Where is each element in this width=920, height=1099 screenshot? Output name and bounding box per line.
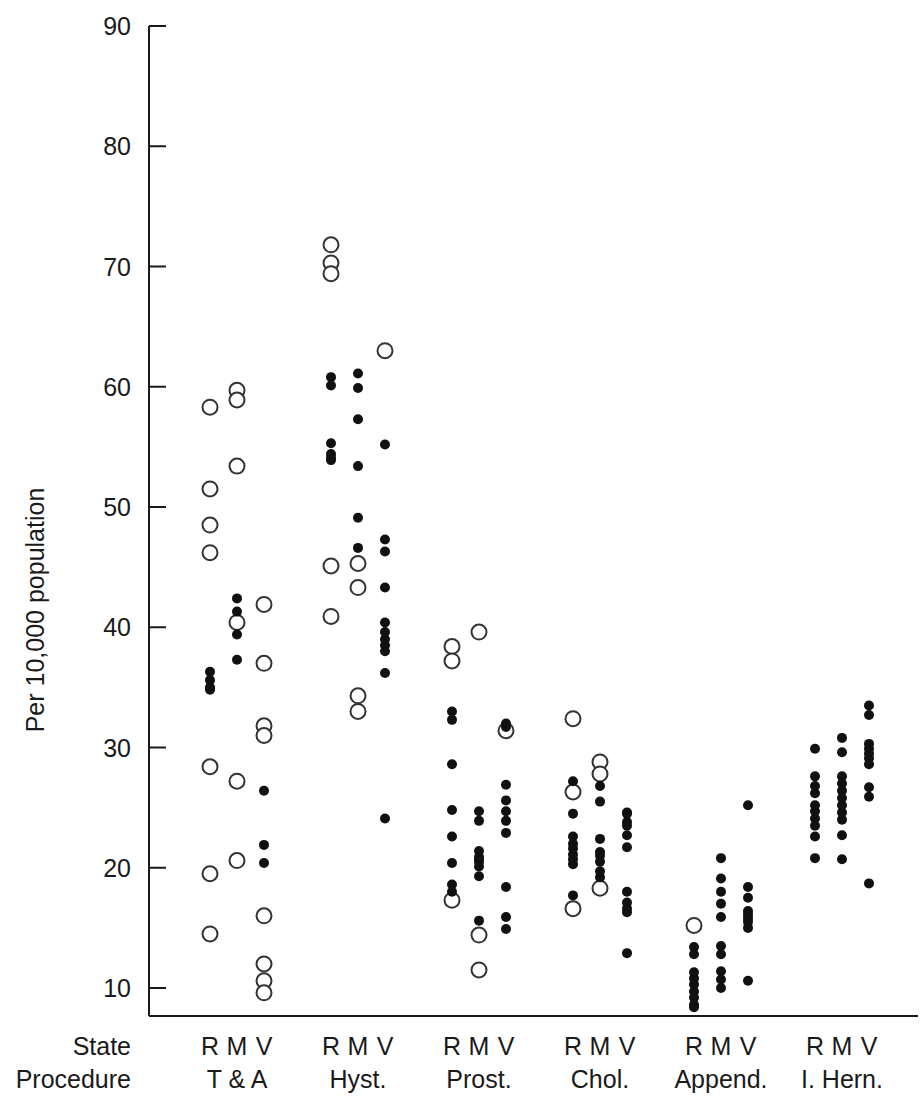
data-point xyxy=(622,842,632,852)
data-point xyxy=(445,639,460,654)
data-point xyxy=(864,700,874,710)
data-point xyxy=(593,881,608,896)
data-point xyxy=(622,830,632,840)
data-point xyxy=(380,668,390,678)
data-point xyxy=(232,629,242,639)
data-point xyxy=(501,806,511,816)
procedure-label-prost: Prost. xyxy=(446,1065,511,1093)
data-point xyxy=(566,711,581,726)
data-point xyxy=(501,882,511,892)
data-point xyxy=(864,792,874,802)
data-point xyxy=(743,882,753,892)
data-point xyxy=(232,593,242,603)
state-label-hyst-m: M xyxy=(348,1032,369,1060)
data-point xyxy=(230,459,245,474)
y-tick-label-90: 90 xyxy=(103,12,131,40)
data-point xyxy=(716,853,726,863)
data-point xyxy=(837,747,847,757)
data-point xyxy=(501,780,511,790)
y-tick-label-10: 10 xyxy=(103,974,131,1002)
data-point xyxy=(380,617,390,627)
data-point xyxy=(230,392,245,407)
data-point xyxy=(810,788,820,798)
state-label-prost-r: R xyxy=(443,1032,461,1060)
data-point xyxy=(837,854,847,864)
y-tick-label-80: 80 xyxy=(103,132,131,160)
data-point xyxy=(447,887,457,897)
scatter-plot-figure: 102030405060708090 Per 10,000 population… xyxy=(0,0,920,1099)
data-point xyxy=(257,985,272,1000)
data-point xyxy=(447,759,457,769)
data-point xyxy=(743,893,753,903)
data-point xyxy=(810,821,820,831)
data-point xyxy=(474,871,484,881)
data-point xyxy=(501,912,511,922)
data-point xyxy=(687,918,702,933)
state-label-ta-m: M xyxy=(227,1032,248,1060)
data-point xyxy=(501,924,511,934)
data-point xyxy=(864,782,874,792)
data-point xyxy=(326,453,336,463)
state-label-ihern-v: V xyxy=(861,1032,878,1060)
data-point xyxy=(566,901,581,916)
y-axis-tick-labels: 102030405060708090 xyxy=(103,12,131,1002)
data-point xyxy=(447,831,457,841)
state-label-append-v: V xyxy=(740,1032,757,1060)
data-point xyxy=(447,858,457,868)
data-point xyxy=(353,513,363,523)
data-point xyxy=(743,923,753,933)
state-label-chol-r: R xyxy=(564,1032,582,1060)
data-point xyxy=(351,704,366,719)
data-point xyxy=(501,795,511,805)
data-point xyxy=(230,615,245,630)
data-point xyxy=(501,816,511,826)
row-label-state: State xyxy=(73,1032,131,1060)
data-points-layer xyxy=(203,237,875,1012)
data-point xyxy=(474,862,484,872)
data-point xyxy=(380,439,390,449)
data-point xyxy=(378,343,393,358)
data-point xyxy=(230,774,245,789)
data-point xyxy=(474,916,484,926)
data-point xyxy=(810,853,820,863)
data-point xyxy=(259,858,269,868)
data-point xyxy=(353,369,363,379)
data-point xyxy=(837,815,847,825)
data-point xyxy=(232,607,242,617)
data-point xyxy=(257,728,272,743)
data-point xyxy=(568,809,578,819)
data-point xyxy=(595,797,605,807)
data-point xyxy=(472,962,487,977)
data-point xyxy=(324,266,339,281)
data-point xyxy=(351,556,366,571)
data-point xyxy=(622,907,632,917)
procedure-label-hyst: Hyst. xyxy=(330,1065,387,1093)
data-point xyxy=(351,580,366,595)
y-tick-label-50: 50 xyxy=(103,493,131,521)
data-point xyxy=(203,518,218,533)
data-point xyxy=(380,646,390,656)
data-point xyxy=(689,1002,699,1012)
data-point xyxy=(324,558,339,573)
data-point xyxy=(622,821,632,831)
data-point xyxy=(716,887,726,897)
data-point xyxy=(716,899,726,909)
y-axis-title: Per 10,000 population xyxy=(21,488,49,733)
procedure-label-ta: T & A xyxy=(207,1065,268,1093)
data-point xyxy=(380,813,390,823)
state-label-ihern-r: R xyxy=(806,1032,824,1060)
data-point xyxy=(326,381,336,391)
state-label-chol-v: V xyxy=(619,1032,636,1060)
state-label-prost-m: M xyxy=(469,1032,490,1060)
procedure-label-append: Append. xyxy=(674,1065,767,1093)
data-point xyxy=(205,684,215,694)
data-point xyxy=(203,926,218,941)
data-point xyxy=(501,828,511,838)
data-point xyxy=(837,830,847,840)
data-point xyxy=(380,546,390,556)
y-tick-label-40: 40 xyxy=(103,613,131,641)
data-point xyxy=(568,859,578,869)
data-point xyxy=(743,976,753,986)
data-point xyxy=(837,733,847,743)
data-point xyxy=(622,948,632,958)
